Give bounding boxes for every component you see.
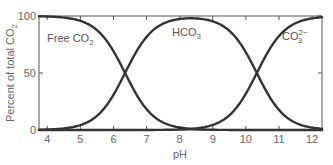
x-tick-label: 10 [240,133,252,145]
x-tick-label: 8 [177,133,183,145]
y-axis-title: Percent of total CO2 [4,23,19,122]
x-axis-title: pH [173,148,187,160]
series-label: Free CO2 [47,32,94,47]
series-label: HCO3 [172,26,201,41]
y-tick-label: 0 [30,124,36,136]
y-tick-label: 100 [18,10,36,22]
x-tick-label: 12 [306,133,318,145]
x-tick-label: 6 [110,133,116,145]
x-tick-label: 4 [44,133,50,145]
x-tick-label: 9 [210,133,216,145]
y-ticks: 050100 [18,10,322,136]
ph-carbonate-chart: 456789101112 050100 Free CO2HCO3CO2−3 pH… [0,0,333,165]
series-label: CO2−3 [282,28,308,45]
x-tick-label: 11 [273,133,284,145]
y-tick-label: 50 [24,67,36,79]
x-tick-label: 7 [144,133,150,145]
x-tick-label: 5 [77,133,83,145]
series-labels: Free CO2HCO3CO2−3 [47,26,308,47]
